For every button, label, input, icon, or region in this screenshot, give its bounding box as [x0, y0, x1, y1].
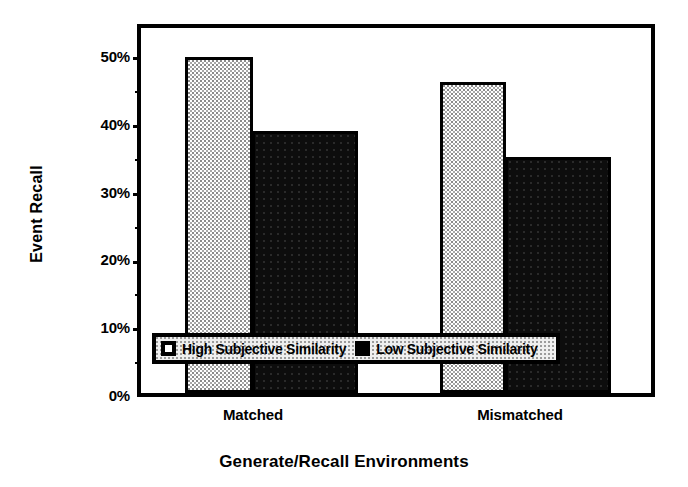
y-tick-label-20: 20% [84, 251, 130, 268]
y-tick-label-50: 50% [84, 48, 130, 65]
y-tick-label-10: 10% [84, 319, 130, 336]
filled-square-icon [355, 341, 370, 356]
y-tick-label-40: 40% [84, 116, 130, 133]
stippled-square-icon [161, 341, 176, 356]
bar-chart: Event Recall 50% 40% 30% 20% 10% 0% High… [0, 0, 688, 487]
y-tick-label-0: 0% [84, 387, 130, 404]
legend-label-low-similarity: Low Subjective Similarity [376, 342, 537, 356]
y-tick-label-30: 30% [84, 184, 130, 201]
legend-entry-high-similarity: High Subjective Similarity [161, 341, 346, 356]
legend-label-high-similarity: High Subjective Similarity [182, 342, 346, 356]
x-tick-label-mismatched: Mismatched [450, 406, 590, 423]
y-axis-tick-labels: 50% 40% 30% 20% 10% 0% [80, 0, 130, 487]
y-axis-title: Event Recall [28, 134, 46, 294]
x-axis-title: Generate/Recall Environments [0, 452, 688, 472]
legend: High Subjective Similarity Low Subjectiv… [152, 333, 560, 364]
legend-entry-low-similarity: Low Subjective Similarity [355, 341, 537, 356]
x-tick-label-matched: Matched [193, 406, 313, 423]
